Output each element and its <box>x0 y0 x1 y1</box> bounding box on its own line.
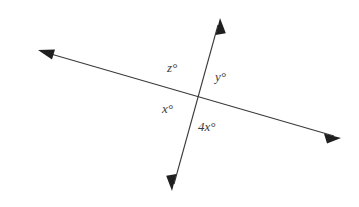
angle-label-4x: 4x° <box>198 120 215 133</box>
angle-label-x: x° <box>162 102 173 115</box>
angle-label-y: y° <box>215 70 226 83</box>
geometry-figure: z° y° x° 4x° <box>0 0 359 207</box>
figure-background <box>0 0 359 207</box>
intersecting-lines-svg <box>0 0 359 207</box>
angle-label-z: z° <box>167 61 177 74</box>
